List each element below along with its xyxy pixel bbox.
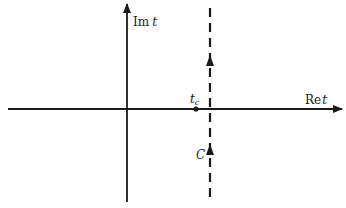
real-axis-label: Ret <box>305 93 327 107</box>
contour-arrow-upper-icon <box>206 55 214 66</box>
point-tc-marker <box>193 106 198 111</box>
contour-arrow-lower-icon <box>206 144 214 155</box>
point-tc-label: tc <box>190 92 200 107</box>
complex-plane-diagram: Imt Ret tc C <box>0 0 346 208</box>
contour-c-label: C <box>196 148 205 162</box>
imag-axis-label: Imt <box>133 15 157 29</box>
